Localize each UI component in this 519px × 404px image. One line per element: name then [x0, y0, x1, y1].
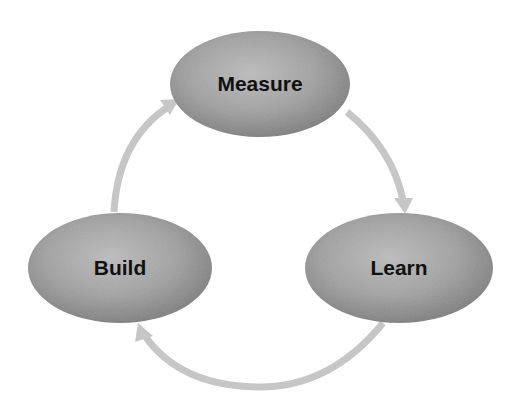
arrow-measure-to-learn: [347, 112, 413, 214]
node-learn: Learn: [305, 213, 493, 323]
arrowhead-icon: [394, 198, 413, 214]
node-build: Build: [28, 213, 212, 323]
node-learn-label: Learn: [370, 256, 427, 279]
build-measure-learn-cycle-diagram: Measure Learn Build: [0, 0, 519, 404]
node-measure: Measure: [170, 31, 350, 137]
arrow-learn-to-build: [135, 323, 383, 387]
arrow-build-to-measure: [114, 99, 179, 212]
node-measure-label: Measure: [217, 72, 302, 95]
node-build-label: Build: [94, 256, 147, 279]
